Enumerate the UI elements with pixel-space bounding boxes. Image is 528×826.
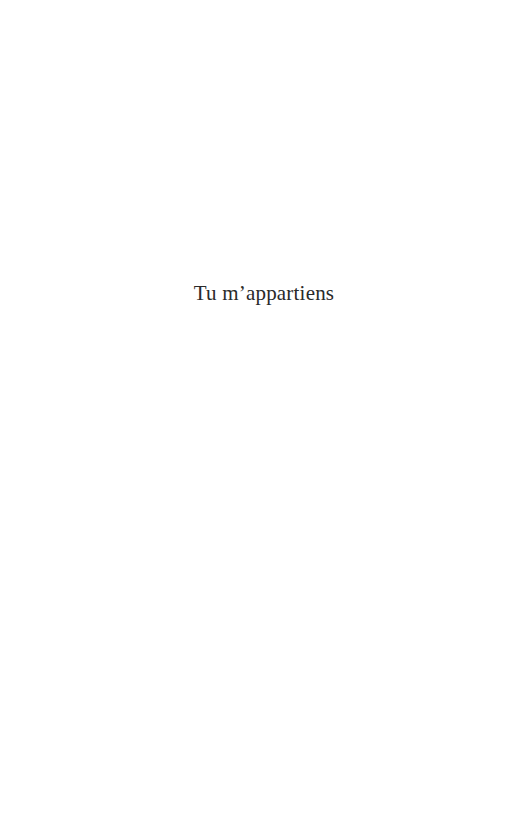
book-page: Tu m’appartiens <box>0 0 528 826</box>
book-title: Tu m’appartiens <box>0 281 528 306</box>
